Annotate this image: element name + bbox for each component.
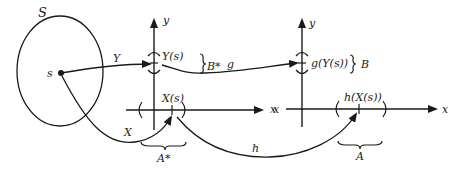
left-y-axis-label: y	[162, 14, 170, 27]
left-x-set-brace	[141, 142, 186, 150]
right-x-set-label: A	[355, 150, 364, 163]
map-h-label: h	[252, 142, 259, 155]
map-Y-arrow	[61, 64, 150, 73]
map-h: h	[177, 114, 356, 157]
right-y-axis-label: y	[308, 17, 316, 30]
map-Y-label: Y	[113, 52, 122, 65]
random-variable-mapping-diagram: S s Y X y x Y(s) B* X(s) A* g	[0, 0, 453, 171]
sample-space-label: S	[38, 5, 47, 20]
left-x-set-label: A*	[156, 152, 171, 165]
map-g-label: g	[227, 58, 234, 71]
right-x-set-brace	[338, 141, 382, 149]
right-y-set-brace	[350, 55, 356, 73]
map-X-label: X	[123, 126, 133, 139]
right-x-point-label: h(X(s))	[344, 91, 382, 104]
left-y-set-label: B*	[206, 60, 221, 73]
right-x-axis-label: x	[442, 103, 449, 116]
right-x-axis-left-label: x	[273, 103, 280, 116]
left-y-point-label: Y(s)	[162, 50, 184, 63]
map-h-arrow	[177, 114, 356, 157]
right-y-set-label: B	[360, 58, 369, 71]
map-Y: Y	[61, 52, 150, 73]
left-y-set-brace	[200, 54, 206, 73]
left-x-point-label: X(s)	[161, 92, 184, 105]
sample-point-label: s	[47, 67, 53, 80]
right-axes: y x x g(Y(s)) B h(X(s)) A	[273, 17, 449, 163]
sample-space: S s	[17, 5, 103, 126]
right-y-point-label: g(Y(s))	[311, 57, 348, 70]
